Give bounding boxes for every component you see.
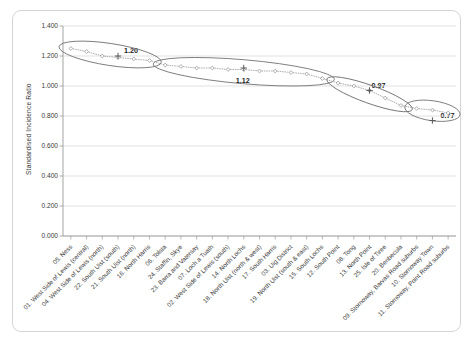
data-points [69,47,450,115]
gridlines [63,26,456,236]
group-ellipses [57,36,461,125]
chart-container: Standardised Incidence Ratio 0.0000.2000… [12,10,461,332]
plot-area [13,11,462,333]
